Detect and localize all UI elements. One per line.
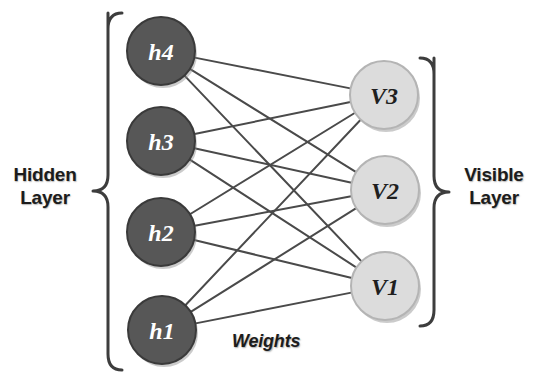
- node-V2[interactable]: V2: [351, 156, 421, 227]
- hidden-layer-label: Hidden Layer: [2, 163, 88, 209]
- diagram-canvas: h4h3h2h1V3V2V1 Hidden Layer Visible Laye…: [0, 0, 536, 389]
- node-V3[interactable]: V3: [350, 61, 420, 132]
- weight-edge-h2-V2: [193, 196, 352, 226]
- node-V1[interactable]: V1: [351, 252, 421, 323]
- node-h4[interactable]: h4: [127, 17, 197, 88]
- weight-edge-h1-V1: [194, 292, 352, 323]
- node-label-h3: h3: [148, 129, 173, 155]
- node-h2[interactable]: h2: [127, 198, 197, 269]
- visible-layer-brace: [420, 58, 449, 326]
- node-h3[interactable]: h3: [127, 107, 197, 178]
- weight-edge-h4-V1: [184, 75, 362, 262]
- neuron-nodes-group: h4h3h2h1V3V2V1: [127, 17, 421, 367]
- weight-edge-h4-V3: [193, 57, 351, 88]
- node-label-h2: h2: [148, 220, 173, 246]
- node-label-V1: V1: [371, 274, 399, 300]
- visible-layer-label: Visible Layer: [452, 163, 536, 209]
- node-label-V2: V2: [371, 178, 399, 204]
- weight-edges-group: [184, 57, 362, 323]
- weights-label: Weights: [232, 331, 300, 352]
- node-label-h1: h1: [149, 318, 174, 344]
- node-label-h4: h4: [148, 39, 173, 65]
- node-label-V3: V3: [370, 83, 398, 109]
- weight-edge-h1-V3: [185, 119, 362, 306]
- hidden-layer-brace: [93, 13, 122, 370]
- node-h1[interactable]: h1: [128, 296, 198, 367]
